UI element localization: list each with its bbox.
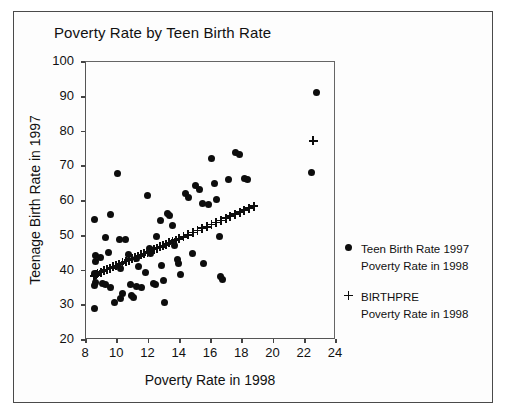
x-tick: 22	[304, 339, 306, 343]
y-axis-title: Teenage Birth Rate in 1997	[26, 61, 44, 339]
y-tick-label: 90	[60, 88, 74, 103]
data-point-circle	[138, 284, 145, 291]
y-tick: 70	[81, 165, 85, 167]
data-point-plus	[309, 136, 318, 145]
data-point-circle	[169, 222, 176, 229]
y-tick-label: 70	[60, 157, 74, 172]
x-axis-title: Poverty Rate in 1998	[85, 372, 335, 388]
x-tick: 10	[116, 339, 118, 343]
data-point-circle	[135, 263, 142, 270]
y-tick: 80	[81, 131, 85, 133]
x-tick: 20	[273, 339, 275, 343]
data-point-circle	[91, 216, 98, 223]
y-tick-label: 40	[60, 262, 74, 277]
data-point-circle	[216, 233, 223, 240]
circle-marker-icon	[345, 244, 352, 251]
data-point-circle	[177, 271, 184, 278]
y-tick-label: 50	[60, 227, 74, 242]
data-point-circle	[208, 155, 215, 162]
plot-area: 2030405060708090100 81012141618202224	[85, 61, 335, 339]
y-tick: 60	[81, 200, 85, 202]
x-tick-label: 18	[234, 345, 248, 360]
data-point-circle	[107, 211, 114, 218]
x-tick: 14	[179, 339, 181, 343]
x-tick: 8	[85, 339, 87, 343]
data-point-circle	[158, 262, 165, 269]
data-point-circle	[91, 305, 98, 312]
x-tick-label: 10	[109, 345, 123, 360]
data-point-circle	[213, 196, 220, 203]
data-point-circle	[308, 169, 315, 176]
data-point-circle	[225, 176, 232, 183]
data-point-circle	[236, 151, 243, 158]
y-tick-label: 100	[52, 53, 74, 68]
y-tick-label: 60	[60, 192, 74, 207]
y-tick: 90	[81, 96, 85, 98]
figure-panel: Poverty Rate by Teen Birth Rate Teenage …	[13, 11, 493, 403]
data-point-circle	[313, 89, 320, 96]
data-point-circle	[200, 260, 207, 267]
data-point-circle	[107, 284, 114, 291]
data-point-circle	[219, 276, 226, 283]
data-point-circle	[196, 186, 203, 193]
y-axis-title-text: Teenage Birth Rate in 1997	[27, 115, 43, 285]
data-point-circle	[211, 180, 218, 187]
legend-entry: BIRTHPREPoverty Rate in 1998	[342, 289, 490, 323]
x-tick: 24	[335, 339, 337, 343]
x-tick-label: 22	[297, 345, 311, 360]
y-tick: 100	[81, 61, 85, 63]
y-tick-label: 20	[60, 331, 74, 346]
legend-series-name: Teen Birth Rate 1997	[361, 241, 490, 258]
data-point-circle	[91, 282, 98, 289]
data-point-circle	[160, 277, 167, 284]
legend-series-sublabel: Poverty Rate in 1998	[361, 258, 490, 275]
legend-series-sublabel: Poverty Rate in 1998	[361, 306, 490, 323]
y-tick: 50	[81, 235, 85, 237]
plus-marker-icon	[344, 291, 353, 300]
data-point-circle	[157, 217, 164, 224]
x-tick: 16	[210, 339, 212, 343]
x-tick-label: 20	[265, 345, 279, 360]
x-tick: 18	[241, 339, 243, 343]
chart-legend: Teen Birth Rate 1997Poverty Rate in 1998…	[342, 241, 490, 337]
chart-title: Poverty Rate by Teen Birth Rate	[54, 24, 271, 41]
data-point-circle	[102, 234, 109, 241]
y-tick-label: 80	[60, 123, 74, 138]
y-tick: 40	[81, 270, 85, 272]
x-tick: 12	[148, 339, 150, 343]
x-tick-label: 12	[140, 345, 154, 360]
y-tick-label: 30	[60, 296, 74, 311]
data-point-circle	[97, 254, 104, 261]
x-tick-label: 8	[81, 345, 88, 360]
x-tick-label: 16	[203, 345, 217, 360]
data-point-circle	[185, 194, 192, 201]
legend-series-name: BIRTHPRE	[361, 289, 490, 306]
legend-entry: Teen Birth Rate 1997Poverty Rate in 1998	[342, 241, 490, 275]
y-tick: 30	[81, 304, 85, 306]
data-point-plus	[249, 202, 258, 211]
x-tick-label: 14	[172, 345, 186, 360]
x-tick-label: 24	[328, 345, 342, 360]
